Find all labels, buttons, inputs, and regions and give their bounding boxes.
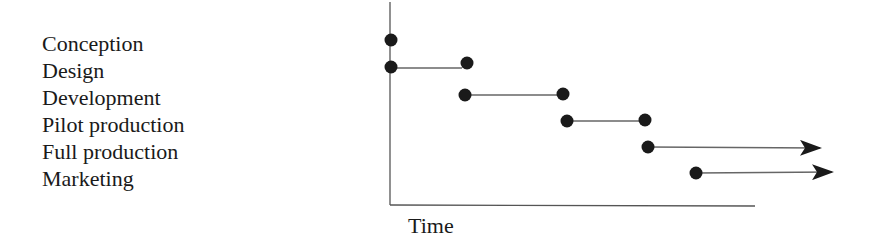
task-design bbox=[385, 57, 474, 74]
task-marketing bbox=[690, 167, 833, 180]
task-full-production bbox=[642, 141, 821, 154]
timeline-chart bbox=[0, 0, 878, 246]
x-axis bbox=[390, 205, 755, 206]
task-conception bbox=[385, 34, 398, 47]
task-pilot-production bbox=[561, 114, 652, 128]
task-development bbox=[459, 88, 570, 102]
x-axis-label: Time bbox=[408, 213, 454, 239]
